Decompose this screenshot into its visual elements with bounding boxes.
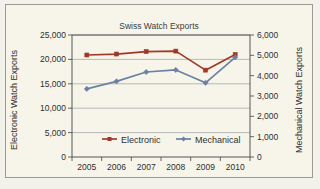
x-axis-tick: 2007 <box>137 162 156 172</box>
y-axis-right-tick: 6,000 <box>257 30 279 40</box>
y-axis-right-tick: 4,000 <box>257 71 279 81</box>
y-axis-right-tick: 0 <box>257 152 262 162</box>
swiss-watch-exports-chart: Swiss Watch Exports 05,00010,00015,00020… <box>6 5 312 177</box>
legend-label: Mechanical <box>195 135 241 145</box>
y-axis-left-tick: 10,000 <box>40 103 66 113</box>
y-axis-left-tick: 25,000 <box>40 30 66 40</box>
series-electronic <box>85 49 237 72</box>
series-mechanical <box>84 55 238 92</box>
y-axis-left-tick-labels: 05,00010,00015,00020,00025,000 <box>40 30 72 162</box>
legend-item-mechanical[interactable]: Mechanical <box>176 135 241 145</box>
legend-label: Electronic <box>121 135 161 145</box>
chart-title: Swiss Watch Exports <box>119 21 199 31</box>
gridlines <box>72 35 250 133</box>
legend-item-electronic[interactable]: Electronic <box>102 135 161 145</box>
y-axis-right-tick: 1,000 <box>257 132 279 142</box>
x-axis-tick: 2006 <box>107 162 126 172</box>
chart-panel: Swiss Watch Exports 05,00010,00015,00020… <box>5 4 313 178</box>
y-axis-right-title: Mechanical Watch Exports <box>294 46 304 153</box>
y-axis-left-tick: 15,000 <box>40 79 66 89</box>
x-axis-tick: 2008 <box>166 162 185 172</box>
y-axis-right-tick: 2,000 <box>257 111 279 121</box>
y-axis-right-tick-labels: 01,0002,0003,0004,0005,0006,000 <box>250 30 279 162</box>
y-axis-left-title: Electronic Watch Exports <box>9 49 19 150</box>
x-axis-tick-labels: 200520062007200820092010 <box>72 157 250 172</box>
y-axis-right-tick: 5,000 <box>257 50 279 60</box>
chart-legend: ElectronicMechanical <box>102 135 241 145</box>
x-axis-tick: 2009 <box>196 162 215 172</box>
series-layer <box>84 49 238 91</box>
x-axis-tick: 2005 <box>77 162 96 172</box>
y-axis-right-tick: 3,000 <box>257 91 279 101</box>
y-axis-left-tick: 20,000 <box>40 54 66 64</box>
x-axis-tick: 2010 <box>226 162 245 172</box>
y-axis-left-tick: 5,000 <box>45 128 67 138</box>
y-axis-left-tick: 0 <box>61 152 66 162</box>
